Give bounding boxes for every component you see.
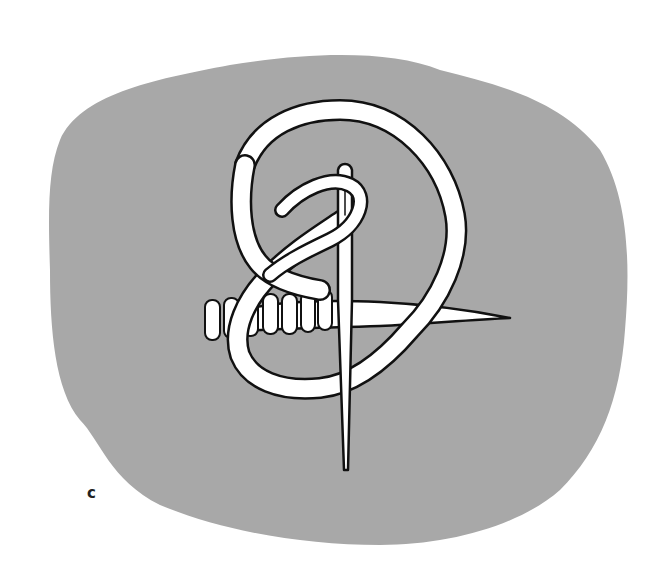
figure-label: c: [87, 486, 96, 501]
illustration: [0, 0, 659, 566]
brooch-drawing: [0, 0, 659, 566]
